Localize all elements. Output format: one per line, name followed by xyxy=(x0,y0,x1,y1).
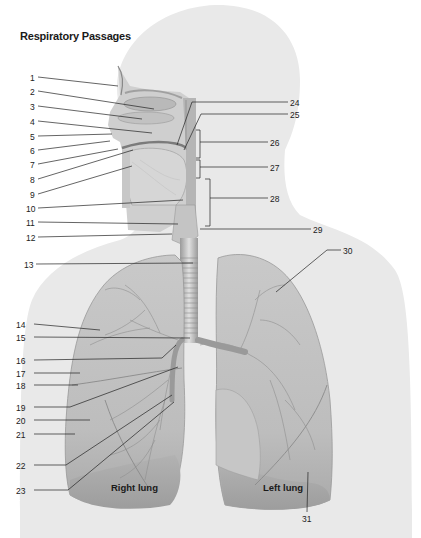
callout-number: 6 xyxy=(30,146,35,156)
callout-number: 19 xyxy=(16,403,25,413)
callout-number: 9 xyxy=(30,190,35,200)
callout-number: 27 xyxy=(270,163,279,173)
callout-number: 5 xyxy=(30,132,35,142)
callout-number: 18 xyxy=(16,381,25,391)
callout-number: 25 xyxy=(290,110,299,120)
callout-number: 8 xyxy=(30,175,35,185)
respiratory-diagram: Respiratory Passages Right lung Left lun… xyxy=(0,0,421,538)
callout-number: 14 xyxy=(16,320,25,330)
callout-number: 17 xyxy=(16,369,25,379)
callout-number: 1 xyxy=(30,73,35,83)
callout-number: 30 xyxy=(343,246,352,256)
callout-number: 31 xyxy=(302,514,311,524)
right-lung-label: Right lung xyxy=(111,482,158,493)
diagram-title: Respiratory Passages xyxy=(20,30,131,42)
callout-number: 15 xyxy=(16,333,25,343)
callout-number: 16 xyxy=(16,356,25,366)
callout-number: 11 xyxy=(26,218,35,228)
left-lung-label: Left lung xyxy=(263,482,303,493)
callout-number: 10 xyxy=(26,204,35,214)
callout-number: 7 xyxy=(30,160,35,170)
callout-number: 22 xyxy=(16,461,25,471)
callout-number: 20 xyxy=(16,416,25,426)
anatomy-illustration xyxy=(0,0,421,538)
callout-number: 28 xyxy=(270,194,279,204)
callout-number: 4 xyxy=(30,117,35,127)
callout-number: 21 xyxy=(16,430,25,440)
callout-number: 29 xyxy=(313,225,322,235)
callout-number: 26 xyxy=(270,138,279,148)
callout-number: 12 xyxy=(26,233,35,243)
callout-number: 24 xyxy=(290,98,299,108)
callout-number: 2 xyxy=(30,87,35,97)
callout-number: 3 xyxy=(30,102,35,112)
callout-number: 23 xyxy=(16,486,25,496)
callout-number: 13 xyxy=(24,260,33,270)
